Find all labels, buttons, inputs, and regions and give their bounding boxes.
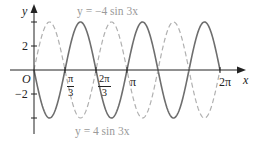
numerator: 2π (98, 74, 111, 87)
curve-label-neg-4-sin-3x: y = −4 sin 3x (77, 6, 138, 18)
denominator: 3 (102, 87, 107, 99)
origin-label: O (22, 73, 31, 85)
sine-plot (0, 0, 263, 144)
y-axis-label: y (22, 5, 27, 17)
y-tick-label-2: 2 (22, 40, 28, 52)
numerator: π (67, 74, 74, 87)
x-tick-label-pi-over-3: π 3 (67, 74, 74, 98)
y-tick-label-neg2: −2 (15, 88, 28, 100)
y-axis-arrow-icon (31, 4, 38, 13)
curve-label-4-sin-3x: y = 4 sin 3x (75, 126, 129, 138)
x-tick-label-pi: π (130, 76, 136, 88)
x-tick-label-2pi: 2π (219, 76, 231, 88)
x-axis-label: x (243, 74, 248, 86)
x-tick-label-2pi-over-3: 2π 3 (98, 74, 111, 98)
denominator: 3 (68, 87, 73, 99)
